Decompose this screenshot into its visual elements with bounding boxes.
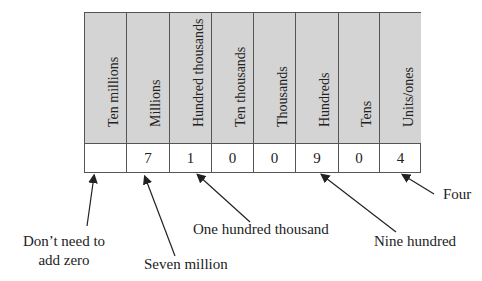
arrow-units xyxy=(403,175,434,194)
annotation-nine-hundred: Nine hundred xyxy=(374,233,456,250)
arrow-hundred-thousands xyxy=(198,175,250,222)
annotation-dont-need-zero: Don’t need to add zero xyxy=(12,232,116,270)
arrow-millions xyxy=(145,177,175,256)
arrow-hundreds xyxy=(322,175,396,232)
annotation-four: Four xyxy=(443,186,471,203)
annotation-one-hundred-thousand: One hundred thousand xyxy=(193,221,329,238)
arrow-ten-millions xyxy=(87,176,94,226)
annotation-seven-million: Seven million xyxy=(144,256,228,273)
